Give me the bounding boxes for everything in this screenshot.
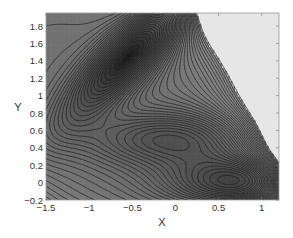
x-axis-label: X [158, 216, 166, 228]
y-tick-label: −0.2 [24, 195, 43, 206]
y-tick-label: 1.8 [30, 21, 43, 32]
y-tick-label: 0.4 [30, 142, 43, 153]
x-tick-label: −1 [84, 202, 95, 213]
y-tick-label: 0.2 [30, 160, 43, 171]
y-tick-label: 0.8 [30, 108, 43, 119]
y-tick-label: 1.6 [30, 38, 43, 49]
y-tick-label: 0 [38, 177, 43, 188]
y-tick-label: 1.2 [30, 73, 43, 84]
y-axis-label: Y [14, 101, 22, 113]
plot-area [46, 13, 280, 201]
x-tick-label: 1 [259, 202, 264, 213]
contour-plot: −1.5−1−0.500.51 −0.200.20.40.60.811.21.4… [0, 0, 293, 238]
x-tick-label: 0 [173, 202, 178, 213]
y-tick-label: 1 [38, 90, 43, 101]
y-tick-label: 1.4 [30, 55, 43, 66]
y-tick-label: 0.6 [30, 125, 43, 136]
x-tick-label: 0.5 [212, 202, 225, 213]
x-tick-label: −0.5 [123, 202, 142, 213]
